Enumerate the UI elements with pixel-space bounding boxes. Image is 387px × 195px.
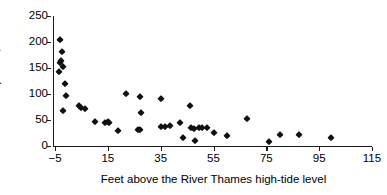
y-tick-label: 0	[42, 140, 48, 152]
data-point	[203, 124, 211, 132]
data-point	[179, 134, 187, 142]
data-point	[186, 103, 194, 111]
x-tick-mark	[55, 147, 56, 151]
data-point	[62, 92, 70, 100]
x-tick-label: 95	[313, 153, 326, 165]
data-point	[60, 107, 68, 115]
y-axis-title-text: Cholera deaths per 10,000	[0, 29, 2, 165]
plot-area: 050100150200250 −51535557595115	[55, 16, 372, 146]
data-point	[265, 138, 273, 146]
data-point	[191, 138, 199, 146]
x-tick-mark	[372, 147, 373, 151]
data-point	[296, 131, 304, 139]
x-axis-title: Feet above the River Thames high-tide le…	[55, 174, 372, 186]
data-point	[137, 109, 145, 117]
x-tick-label: 115	[363, 153, 381, 165]
y-tick-label: 50	[35, 114, 48, 126]
y-axis-title: Cholera deaths per 10,000	[0, 0, 16, 195]
y-tick-label: 250	[29, 10, 48, 22]
x-tick-label: 75	[260, 153, 273, 165]
data-point	[56, 36, 64, 44]
data-point	[223, 132, 231, 140]
data-point	[61, 80, 69, 88]
x-tick-mark	[161, 147, 162, 151]
x-axis-line	[53, 146, 372, 147]
y-axis-line	[53, 16, 54, 146]
data-point	[82, 105, 90, 113]
x-tick-mark	[319, 147, 320, 151]
x-tick-label: 55	[207, 153, 220, 165]
data-point	[59, 48, 67, 56]
y-tick-label: 150	[29, 62, 48, 74]
data-point	[123, 90, 131, 98]
data-point	[327, 134, 335, 142]
x-tick-mark	[108, 147, 109, 151]
data-point	[136, 93, 144, 101]
data-point	[276, 131, 284, 139]
data-point	[210, 129, 218, 137]
x-tick-mark	[214, 147, 215, 151]
y-tick-label: 200	[29, 36, 48, 48]
y-tick-label: 100	[29, 88, 48, 100]
data-point	[115, 128, 123, 136]
scatter-chart-figure: Cholera deaths per 10,000 05010015020025…	[0, 0, 387, 195]
data-point	[177, 119, 185, 127]
x-tick-label: 35	[154, 153, 167, 165]
x-tick-label: 15	[101, 153, 114, 165]
data-point	[105, 119, 113, 127]
x-tick-label: −5	[48, 153, 61, 165]
data-point	[157, 95, 165, 103]
x-tick-mark	[266, 147, 267, 151]
data-point	[91, 118, 99, 126]
data-point	[243, 115, 251, 123]
data-point	[166, 122, 174, 130]
